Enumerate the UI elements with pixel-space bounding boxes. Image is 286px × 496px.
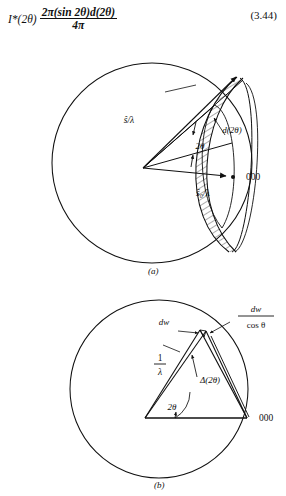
page-canvas: I*(2θ) 2π(sin 2θ)d(2θ) 4π (3.44) [0, 0, 286, 496]
dw-over-cos-denominator: cos θ [247, 320, 266, 330]
caption-line-2: l sphere. [0, 438, 56, 449]
label-dw-over-cos-theta: dw cos θ [238, 304, 274, 330]
panel-a: ŝ/λ 2θ d(2θ) ŝ₀/λ 000 [52, 60, 260, 270]
caption-line-1: ed with [0, 427, 56, 438]
label-one-over-lambda: 1 λ [154, 353, 166, 377]
label-origin-000-b: 000 [259, 413, 274, 423]
vector-s0-over-lambda [143, 168, 226, 176]
label-s-over-lambda: ŝ/λ [124, 115, 134, 125]
figure-caption: ed with l sphere. a ring of the rela- [0, 427, 56, 472]
dw-leader-line [178, 331, 198, 333]
one-over-lambda-leader-line [163, 345, 180, 352]
chord-spot-to-origin [200, 330, 247, 418]
panel-a-caption-letter: (a) [148, 266, 159, 276]
label-origin-000-a: 000 [246, 172, 261, 182]
caption-line-3: a ring of [0, 450, 56, 461]
label-s0-over-lambda: ŝ₀/λ [196, 188, 210, 198]
panel-b: dw dw cos θ 1 λ Δ(2θ) 2θ 000 [70, 300, 274, 478]
one-over-lambda-denominator: λ [157, 367, 162, 377]
dw-over-cos-numerator: dw [251, 304, 262, 314]
vector-s-over-lambda [143, 77, 236, 168]
band-top-leader-line [165, 85, 196, 92]
diffraction-ring-right-arc [232, 78, 252, 252]
label-two-theta-a: 2θ [196, 141, 206, 151]
dw-wedge [200, 330, 206, 337]
panel-b-caption-letter: (b) [154, 480, 165, 490]
caption-line-4: the rela- [0, 461, 56, 472]
figure-ewald-sphere: ŝ/λ 2θ d(2θ) ŝ₀/λ 000 [0, 0, 286, 496]
label-two-theta-b: 2θ [168, 402, 178, 412]
delta-two-theta-leader [192, 355, 197, 377]
label-delta-two-theta: Δ(2θ) [199, 375, 220, 385]
diffraction-ring-outer-arc [235, 83, 258, 252]
label-d-two-theta: d(2θ) [222, 125, 241, 135]
two-theta-arc [175, 392, 190, 418]
one-over-lambda-numerator: 1 [158, 353, 163, 363]
two-theta-arrow-lower [191, 155, 193, 167]
label-dw: dw [159, 317, 170, 327]
cone-section-ellipse-near [214, 105, 234, 228]
origin-000-dot [231, 175, 235, 179]
